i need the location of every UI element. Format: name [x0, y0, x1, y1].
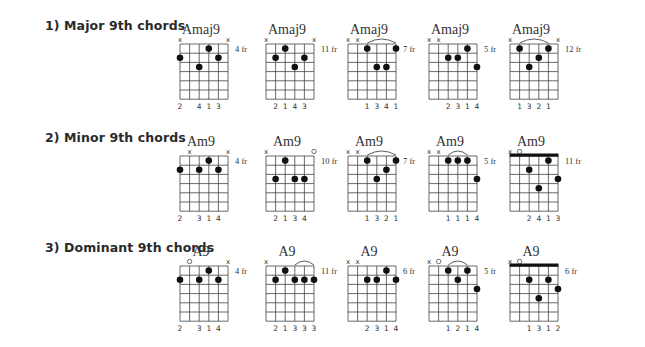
muted-string-marker: x — [356, 36, 360, 44]
fretboard-grid: x11 fr2413 — [502, 134, 592, 229]
finger-dot — [383, 167, 390, 174]
finger-number: 3 — [292, 214, 297, 223]
finger-number: 1 — [206, 214, 211, 223]
muted-string-marker: x — [346, 36, 350, 44]
finger-dot — [526, 277, 533, 284]
open-string-marker — [187, 259, 191, 263]
fretboard-grid: xx4 fr2314 — [172, 134, 262, 229]
finger-number: 1 — [283, 214, 288, 223]
chord-diagram: Am9x10 fr2134 — [258, 134, 348, 229]
finger-dot — [464, 157, 471, 164]
finger-dot — [374, 176, 381, 183]
muted-string-marker: x — [346, 148, 350, 156]
muted-string-marker: x — [427, 258, 431, 266]
finger-number: 2 — [273, 324, 278, 333]
finger-number: 1 — [446, 214, 451, 223]
muted-string-marker: x — [264, 258, 268, 266]
finger-dot — [215, 167, 222, 174]
finger-dot — [374, 277, 381, 284]
finger-number: 1 — [517, 102, 522, 111]
finger-number: 1 — [283, 324, 288, 333]
finger-number: 3 — [374, 324, 379, 333]
finger-dot — [383, 64, 390, 71]
chord-diagram: Amaj9xx11 fr2143 — [258, 22, 348, 117]
finger-dot — [301, 176, 308, 183]
finger-dot — [474, 286, 481, 293]
fret-position-label: 5 fr — [484, 266, 496, 276]
finger-dot — [215, 277, 222, 284]
finger-number: 1 — [527, 324, 532, 333]
muted-string-marker: x — [178, 36, 182, 44]
finger-dot — [536, 185, 543, 192]
fret-position-label: 10 fr — [321, 156, 337, 166]
open-string-marker — [312, 149, 316, 153]
finger-dot — [545, 157, 552, 164]
finger-dot — [272, 277, 279, 284]
finger-dot — [455, 277, 462, 284]
finger-number: 3 — [216, 102, 221, 111]
finger-dot — [311, 277, 318, 284]
finger-dot — [301, 55, 308, 62]
finger-dot — [177, 277, 184, 284]
barre-arc — [367, 151, 396, 155]
finger-number: 2 — [536, 102, 541, 111]
finger-number: 3 — [556, 214, 561, 223]
finger-number: 2 — [178, 324, 183, 333]
finger-dot — [445, 157, 452, 164]
finger-dot — [545, 277, 552, 284]
finger-number: 3 — [292, 324, 297, 333]
finger-number: 4 — [216, 324, 221, 333]
muted-string-marker: x — [356, 148, 360, 156]
fretboard-grid: x4 fr2314 — [172, 244, 262, 339]
finger-dot — [393, 157, 400, 164]
finger-number: 1 — [465, 324, 470, 333]
finger-number: 1 — [206, 324, 211, 333]
finger-number: 1 — [546, 324, 551, 333]
finger-dot — [177, 167, 184, 174]
finger-dot — [455, 55, 462, 62]
finger-number: 1 — [365, 214, 370, 223]
muted-string-marker: x — [346, 258, 350, 266]
chord-diagram: Am9x11 fr2413 — [502, 134, 592, 229]
fret-position-label: 6 fr — [403, 266, 415, 276]
muted-string-marker: x — [437, 36, 441, 44]
barre-arc — [448, 261, 467, 265]
fretboard-grid: xx7 fr1321 — [340, 134, 430, 229]
finger-dot — [292, 277, 299, 284]
finger-dot — [393, 45, 400, 52]
muted-string-marker: x — [356, 258, 360, 266]
muted-string-marker: x — [312, 36, 316, 44]
fret-position-label: 4 fr — [235, 156, 247, 166]
fretboard-grid: xx5 fr2314 — [421, 22, 511, 117]
barre-arc — [448, 151, 467, 155]
finger-number: 1 — [465, 102, 470, 111]
finger-number: 1 — [394, 214, 399, 223]
finger-dot — [206, 157, 213, 164]
chord-diagram: A9xx6 fr2314 — [340, 244, 430, 339]
fret-position-label: 7 fr — [403, 156, 415, 166]
finger-dot — [536, 295, 543, 302]
finger-dot — [445, 55, 452, 62]
finger-number: 1 — [206, 102, 211, 111]
finger-number: 4 — [536, 214, 541, 223]
finger-number: 4 — [475, 102, 480, 111]
finger-number: 1 — [394, 102, 399, 111]
finger-dot — [196, 277, 203, 284]
finger-number: 2 — [384, 214, 389, 223]
barre-arc — [295, 261, 314, 265]
finger-number: 4 — [394, 324, 399, 333]
muted-string-marker: x — [427, 148, 431, 156]
muted-string-marker: x — [508, 148, 512, 156]
finger-dot — [445, 267, 452, 274]
finger-dot — [393, 277, 400, 284]
fret-position-label: 12 fr — [565, 44, 581, 54]
finger-dot — [545, 45, 552, 52]
finger-number: 1 — [365, 102, 370, 111]
finger-number: 2 — [455, 324, 460, 333]
finger-number: 1 — [283, 102, 288, 111]
finger-dot — [374, 64, 381, 71]
chord-diagram: Am9xx7 fr1321 — [340, 134, 430, 229]
fret-position-label: 5 fr — [484, 44, 496, 54]
finger-number: 4 — [197, 102, 202, 111]
finger-dot — [196, 167, 203, 174]
